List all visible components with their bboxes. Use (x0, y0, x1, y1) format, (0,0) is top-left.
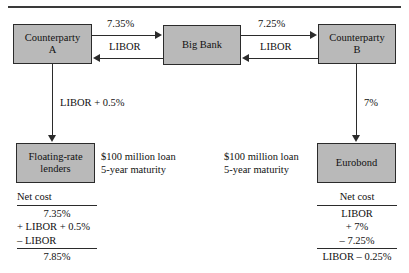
flow-label-b-to-eurobond: 7% (364, 97, 378, 109)
net-cost-block-right: Net cost LIBOR + 7% – 7.25% LIBOR – 0.25… (317, 190, 397, 264)
flow-arrowhead-b-to-eurobond (352, 135, 360, 142)
flow-line-a-to-bank-fixed (92, 35, 156, 36)
flow-label-bank-to-b-fixed: 7.25% (258, 18, 285, 30)
net-cost-right-row-2: – 7.25% (317, 234, 397, 248)
flow-arrowhead-a-to-bank-fixed (155, 31, 162, 39)
flow-arrowhead-bank-to-a-floating (93, 54, 100, 62)
loan-note-right: $100 million loan 5-year maturity (224, 150, 299, 176)
flow-arrowhead-bank-to-b-fixed (310, 31, 317, 39)
net-cost-right-row-1: + 7% (317, 220, 397, 234)
flow-line-b-to-eurobond (356, 64, 357, 136)
loan-note-left-line2: 5-year maturity (101, 163, 176, 176)
entity-box-big-bank: Big Bank (163, 25, 241, 65)
net-cost-left-title: Net cost (17, 190, 97, 204)
entity-box-counterparty-a: Counterparty A (13, 24, 92, 64)
net-cost-left-title-rule (17, 205, 97, 206)
swap-diagram: Counterparty A Big Bank Counterparty B F… (0, 0, 409, 273)
flow-line-b-to-bank-floating (249, 58, 318, 59)
flow-line-bank-to-b-fixed (241, 35, 311, 36)
counterparty-b-label-line1: Counterparty (329, 32, 384, 45)
net-cost-left-total: 7.85% (17, 250, 97, 264)
entity-box-eurobond: Eurobond (317, 143, 396, 183)
top-divider-rule (8, 6, 401, 8)
big-bank-label: Big Bank (182, 39, 222, 52)
floating-rate-label-line2: lenders (28, 163, 82, 176)
net-cost-left-total-rule (17, 248, 97, 249)
loan-note-right-line1: $100 million loan (224, 150, 299, 163)
counterparty-a-label-line1: Counterparty (25, 32, 80, 45)
net-cost-right-title-rule (317, 205, 397, 206)
counterparty-b-label-line2: B (329, 44, 384, 57)
eurobond-label: Eurobond (336, 157, 377, 170)
net-cost-left-row-2: – LIBOR (17, 234, 97, 248)
counterparty-a-label-line2: A (25, 44, 80, 57)
net-cost-block-left: Net cost 7.35% + LIBOR + 0.5% – LIBOR 7.… (17, 190, 97, 264)
entity-box-floating-rate-lenders: Floating-rate lenders (16, 143, 95, 183)
loan-note-right-line2: 5-year maturity (224, 163, 299, 176)
net-cost-left-row-1: + LIBOR + 0.5% (17, 220, 97, 234)
flow-label-a-to-lenders: LIBOR + 0.5% (60, 97, 125, 109)
flow-label-b-to-bank-floating: LIBOR (260, 41, 292, 53)
net-cost-right-total-rule (317, 248, 397, 249)
loan-note-left-line1: $100 million loan (101, 150, 176, 163)
flow-line-a-to-lenders (52, 64, 53, 136)
entity-box-counterparty-b: Counterparty B (318, 24, 396, 64)
flow-arrowhead-b-to-bank-floating (242, 54, 249, 62)
net-cost-left-row-0: 7.35% (17, 207, 97, 221)
net-cost-right-total: LIBOR – 0.25% (317, 250, 397, 264)
flow-line-bank-to-a-floating (100, 58, 163, 59)
net-cost-right-title: Net cost (317, 190, 397, 204)
flow-arrowhead-a-to-lenders (48, 135, 56, 142)
flow-label-a-to-bank-fixed: 7.35% (107, 18, 134, 30)
flow-label-bank-to-a-floating: LIBOR (109, 41, 141, 53)
net-cost-right-row-0: LIBOR (317, 207, 397, 221)
loan-note-left: $100 million loan 5-year maturity (101, 150, 176, 176)
floating-rate-label-line1: Floating-rate (28, 151, 82, 164)
